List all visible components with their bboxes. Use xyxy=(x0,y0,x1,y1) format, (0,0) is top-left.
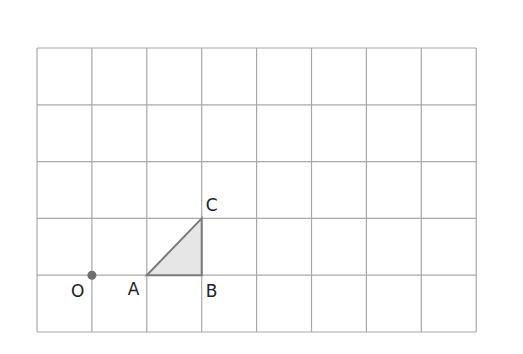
triangle-abc xyxy=(147,218,202,275)
grid-lines xyxy=(37,48,476,332)
grid-diagram: O A B C xyxy=(0,0,523,354)
label-b: B xyxy=(206,281,218,301)
label-c: C xyxy=(206,195,218,215)
label-o: O xyxy=(71,281,84,301)
point-o-dot xyxy=(87,271,96,280)
label-a: A xyxy=(128,279,140,299)
